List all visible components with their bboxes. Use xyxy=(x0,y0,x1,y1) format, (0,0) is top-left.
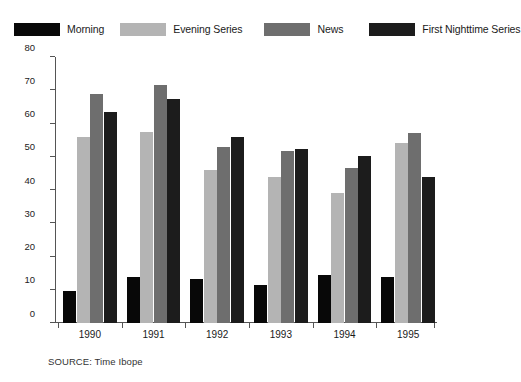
y-axis-tick-label: 60 xyxy=(0,109,35,119)
legend-swatch-morning xyxy=(14,23,60,36)
y-axis-tick-label: 80 xyxy=(0,43,35,53)
bar xyxy=(204,170,217,323)
legend-item-morning: Morning xyxy=(14,23,104,36)
y-axis-tick-label: 20 xyxy=(0,242,35,252)
legend-label-first-nighttime-series: First Nighttime Series xyxy=(422,23,520,35)
x-axis-label: 1995 xyxy=(378,329,438,340)
bar xyxy=(90,94,103,323)
y-axis-tick-label: 0 xyxy=(0,309,35,319)
bar xyxy=(318,275,331,323)
x-axis-tick xyxy=(313,323,314,328)
bar-group xyxy=(318,57,372,323)
y-axis-tick-label: 10 xyxy=(0,275,35,285)
bar xyxy=(408,133,421,323)
bar xyxy=(395,143,408,323)
x-axis-label: 1991 xyxy=(124,329,184,340)
legend-swatch-news xyxy=(264,23,310,36)
plot-area: 01020304050607080 1990199119921993199419… xyxy=(55,57,437,323)
bar xyxy=(358,156,371,323)
x-axis-tick xyxy=(376,323,377,328)
legend-label-news: News xyxy=(317,23,343,35)
legend-label-evening-series: Evening Series xyxy=(173,23,242,35)
bar xyxy=(281,151,294,323)
source-note: SOURCE: Time Ibope xyxy=(48,356,143,367)
bars-layer xyxy=(55,57,437,323)
bar xyxy=(295,149,308,323)
legend-item-evening-series: Evening Series xyxy=(120,23,242,36)
bar-group xyxy=(63,57,117,323)
y-axis-tick-label: 40 xyxy=(0,176,35,186)
bar xyxy=(190,279,203,323)
legend-swatch-first-nighttime-series xyxy=(369,23,415,36)
x-axis-label: 1994 xyxy=(315,329,375,340)
x-axis-label: 1992 xyxy=(187,329,247,340)
legend-item-first-nighttime-series: First Nighttime Series xyxy=(369,23,520,36)
bar xyxy=(154,85,167,323)
bar xyxy=(345,168,358,323)
y-axis-tick-label: 70 xyxy=(0,76,35,86)
bar xyxy=(268,177,281,323)
bar-group xyxy=(254,57,308,323)
bar xyxy=(167,99,180,323)
x-axis-tick xyxy=(434,323,435,328)
bar xyxy=(331,193,344,323)
legend-label-morning: Morning xyxy=(67,23,104,35)
x-axis-tick xyxy=(122,323,123,328)
x-axis-tick xyxy=(185,323,186,328)
y-axis-tick-label: 50 xyxy=(0,142,35,152)
bar xyxy=(381,277,394,323)
x-axis-label: 1993 xyxy=(251,329,311,340)
bar xyxy=(104,112,117,323)
bar xyxy=(422,177,435,323)
x-axis-tick xyxy=(249,323,250,328)
bar xyxy=(140,132,153,323)
x-axis-tick xyxy=(58,323,59,328)
bar xyxy=(217,147,230,323)
legend-swatch-evening-series xyxy=(120,23,166,36)
chart-legend: Morning Evening Series News First Nightt… xyxy=(14,20,438,38)
bar xyxy=(254,285,267,323)
bar-group xyxy=(381,57,435,323)
x-axis-label: 1990 xyxy=(60,329,120,340)
y-axis-tick-label: 30 xyxy=(0,209,35,219)
legend-item-news: News xyxy=(264,23,343,36)
bar xyxy=(127,277,140,323)
bar-group xyxy=(127,57,181,323)
bar-group xyxy=(190,57,244,323)
bar xyxy=(77,137,90,323)
bar xyxy=(63,291,76,323)
bar xyxy=(231,137,244,323)
